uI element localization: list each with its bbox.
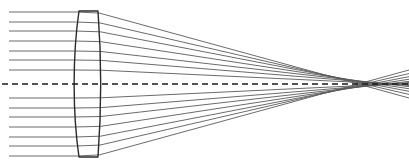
optics-canvas <box>0 0 409 168</box>
lens-ray-diagram <box>0 0 409 168</box>
